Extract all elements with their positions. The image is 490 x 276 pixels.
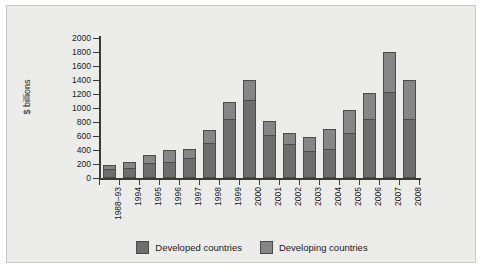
x-axis-tick-label: 2000 bbox=[253, 187, 263, 206]
x-axis-tick bbox=[139, 180, 140, 185]
x-axis-tick bbox=[419, 180, 420, 185]
bar-segment-developing bbox=[363, 93, 376, 119]
bar-column bbox=[243, 38, 256, 178]
x-axis-tick-label: 2002 bbox=[293, 187, 303, 206]
bar-column bbox=[383, 38, 396, 178]
y-axis-tick bbox=[93, 94, 99, 95]
bar-column bbox=[303, 38, 316, 178]
x-axis-tick-label: 2005 bbox=[353, 187, 363, 206]
x-axis-tick-label: 1994 bbox=[133, 187, 143, 206]
plot-area bbox=[99, 38, 419, 178]
x-axis-tick bbox=[119, 180, 120, 185]
x-axis-tick-label: 2006 bbox=[373, 187, 383, 206]
bar-segment-developed bbox=[103, 169, 116, 178]
bar-segment-developing bbox=[223, 102, 236, 119]
y-axis-tick bbox=[93, 122, 99, 123]
x-axis-tick bbox=[259, 180, 260, 185]
bar-segment-developed bbox=[123, 168, 136, 179]
y-axis-tick-label: 800 bbox=[77, 118, 91, 126]
bar-column bbox=[183, 38, 196, 178]
bar-segment-developed bbox=[203, 143, 216, 178]
bar-column bbox=[403, 38, 416, 178]
bar-column bbox=[103, 38, 116, 178]
legend-label: Developed countries bbox=[155, 242, 242, 253]
legend-item: Developing countries bbox=[260, 241, 368, 254]
bar-segment-developing bbox=[383, 52, 396, 92]
x-axis-tick bbox=[399, 180, 400, 185]
bar-segment-developed bbox=[403, 119, 416, 179]
x-axis-tick-label: 1997 bbox=[193, 187, 203, 206]
bar-segment-developed bbox=[143, 163, 156, 178]
x-axis-line bbox=[99, 178, 421, 180]
bar-segment-developed bbox=[303, 151, 316, 178]
bar-column bbox=[283, 38, 296, 178]
bar-segment-developing bbox=[183, 149, 196, 159]
x-axis-tick bbox=[159, 180, 160, 185]
x-axis-tick-label: 1988–93 bbox=[113, 187, 123, 220]
bar-column bbox=[363, 38, 376, 178]
bar-segment-developing bbox=[203, 130, 216, 143]
bar-segment-developing bbox=[343, 110, 356, 133]
chart-legend: Developed countriesDeveloping countries bbox=[107, 237, 397, 257]
x-axis-tick bbox=[219, 180, 220, 185]
x-axis-tick bbox=[339, 180, 340, 185]
y-axis-tick bbox=[93, 178, 99, 179]
y-axis-tick bbox=[93, 66, 99, 67]
bar-column bbox=[123, 38, 136, 178]
bar-segment-developed bbox=[363, 119, 376, 179]
legend-item: Developed countries bbox=[136, 241, 242, 254]
y-axis-tick bbox=[93, 38, 99, 39]
x-axis-tick-label: 2004 bbox=[333, 187, 343, 206]
bar-segment-developed bbox=[283, 144, 296, 178]
y-axis-tick-label: 0 bbox=[86, 174, 91, 182]
y-axis-tick-label: 1400 bbox=[72, 76, 91, 84]
bar-column bbox=[143, 38, 156, 178]
y-axis-tick-label: 1800 bbox=[72, 48, 91, 56]
x-axis-tick bbox=[199, 180, 200, 185]
legend-label: Developing countries bbox=[279, 242, 368, 253]
x-axis-tick-label: 2008 bbox=[413, 187, 423, 206]
bar-segment-developed bbox=[343, 133, 356, 178]
bar-segment-developing bbox=[303, 137, 316, 150]
y-axis-tick-labels: 0200400600800100012001400160018002000 bbox=[57, 6, 91, 276]
bar-segment-developed bbox=[383, 92, 396, 178]
chart-figure: 0200400600800100012001400160018002000 $ … bbox=[6, 5, 476, 263]
bar-segment-developing bbox=[163, 150, 176, 162]
x-axis-tick-label: 2001 bbox=[273, 187, 283, 206]
y-axis-tick-label: 1200 bbox=[72, 90, 91, 98]
y-axis-tick bbox=[93, 150, 99, 151]
bar-segment-developing bbox=[283, 133, 296, 145]
x-axis-tick-label: 1998 bbox=[213, 187, 223, 206]
y-axis-tick-label: 1600 bbox=[72, 62, 91, 70]
bar-segment-developing bbox=[403, 80, 416, 119]
bar-column bbox=[323, 38, 336, 178]
bar-column bbox=[263, 38, 276, 178]
y-axis-tick-label: 200 bbox=[77, 160, 91, 168]
y-axis-tick-label: 400 bbox=[77, 146, 91, 154]
x-axis-tick bbox=[379, 180, 380, 185]
bar-column bbox=[163, 38, 176, 178]
x-axis-tick bbox=[319, 180, 320, 185]
bar-segment-developed bbox=[183, 158, 196, 178]
bar-column bbox=[223, 38, 236, 178]
bar-segment-developed bbox=[243, 100, 256, 178]
bar-segment-developed bbox=[223, 119, 236, 179]
y-axis-tick-label: 600 bbox=[77, 132, 91, 140]
y-axis-tick bbox=[93, 108, 99, 109]
x-axis-tick-label: 2003 bbox=[313, 187, 323, 206]
y-axis-tick-label: 1000 bbox=[72, 104, 91, 112]
bar-column bbox=[203, 38, 216, 178]
y-axis-tick bbox=[93, 136, 99, 137]
x-axis-tick-label: 1995 bbox=[153, 187, 163, 206]
x-axis-tick bbox=[239, 180, 240, 185]
x-axis-tick-label: 2007 bbox=[393, 187, 403, 206]
bar-segment-developing bbox=[143, 155, 156, 163]
bar-segment-developing bbox=[263, 121, 276, 135]
y-axis-tick-label: 2000 bbox=[72, 34, 91, 42]
bar-column bbox=[343, 38, 356, 178]
y-axis-tick bbox=[93, 80, 99, 81]
x-axis-tick bbox=[99, 180, 100, 185]
y-axis-tick bbox=[93, 164, 99, 165]
bar-segment-developed bbox=[263, 135, 276, 178]
bar-segment-developed bbox=[323, 149, 336, 178]
